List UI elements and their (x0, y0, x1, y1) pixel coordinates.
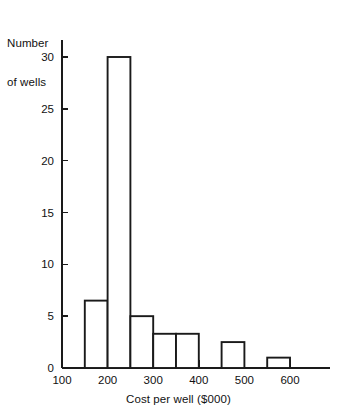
x-axis-label: Cost per well ($000) (126, 393, 231, 405)
histogram-bar (108, 57, 131, 368)
y-tick-label: 25 (20, 103, 54, 115)
histogram-bar (222, 342, 245, 368)
x-tick-label: 400 (189, 374, 208, 386)
y-tick-label: 30 (20, 51, 54, 63)
histogram-bar (153, 334, 176, 368)
histogram-chart: Number of wells 051015202530 10020030040… (0, 0, 344, 414)
bars (85, 57, 290, 368)
x-tick-label: 300 (144, 374, 163, 386)
y-tick-label: 0 (20, 362, 54, 374)
y-tick-label: 15 (20, 207, 54, 219)
x-tick-label: 100 (52, 374, 71, 386)
histogram-bar (130, 316, 153, 368)
x-tick-label: 200 (98, 374, 117, 386)
histogram-bar (267, 358, 290, 368)
histogram-bar (85, 301, 108, 368)
histogram-bar (176, 334, 199, 368)
x-tick-label: 600 (280, 374, 299, 386)
y-tick-label: 5 (20, 310, 54, 322)
y-tick-label: 10 (20, 258, 54, 270)
y-tick-label: 20 (20, 155, 54, 167)
x-tick-label: 500 (235, 374, 254, 386)
